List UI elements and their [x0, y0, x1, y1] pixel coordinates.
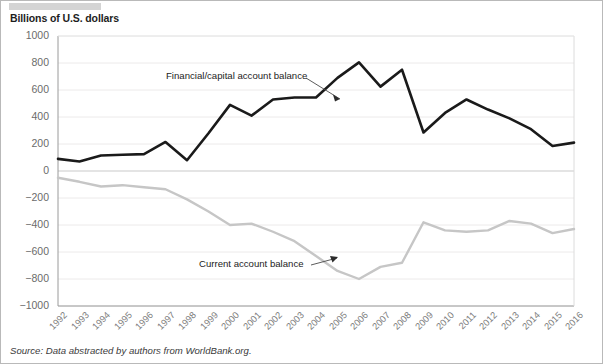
y-tick-label: 1000 [9, 29, 49, 41]
y-tick-label: −200 [9, 191, 49, 203]
y-tick-label: −400 [9, 218, 49, 230]
annotation-financial-balance: Financial/capital account balance [166, 70, 307, 81]
chart-figure: Billions of U.S. dollars Financial/capit… [0, 0, 603, 364]
source-note: Source: Data abstracted by authors from … [10, 345, 252, 356]
y-tick-label: 400 [9, 110, 49, 122]
series-line-financial [58, 62, 574, 161]
y-tick-label: −1000 [9, 299, 49, 311]
y-tick-label: 200 [9, 137, 49, 149]
y-tick-label: −800 [9, 272, 49, 284]
y-tick-label: 600 [9, 83, 49, 95]
y-tick-label: 800 [9, 56, 49, 68]
y-tick-label: −600 [9, 245, 49, 257]
annotation-current-balance: Current account balance [199, 258, 304, 269]
y-tick-label: 0 [9, 164, 49, 176]
